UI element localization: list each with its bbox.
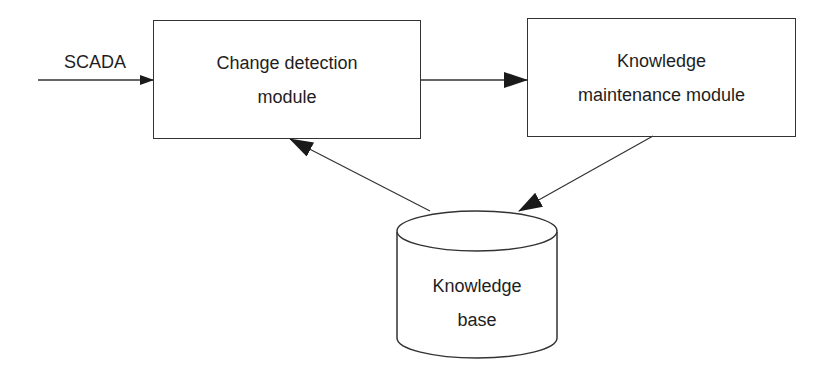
scada-label: SCADA: [50, 45, 140, 79]
change-detection-label-line2: module: [257, 80, 316, 114]
change-detection-label-line1: Change detection: [216, 46, 357, 80]
arrow-maintenance-to-knowledgebase: [519, 136, 653, 211]
knowledge-maintenance-module: Knowledge maintenance module: [527, 18, 796, 137]
knowledge-base-label-line1: Knowledge: [397, 269, 557, 303]
knowledge-maintenance-label-line2: maintenance module: [578, 78, 745, 112]
arrow-knowledgebase-to-change: [290, 139, 430, 211]
knowledge-base-label-line2: base: [397, 303, 557, 337]
change-detection-module: Change detection module: [153, 20, 421, 139]
knowledge-maintenance-label-line1: Knowledge: [617, 44, 706, 78]
